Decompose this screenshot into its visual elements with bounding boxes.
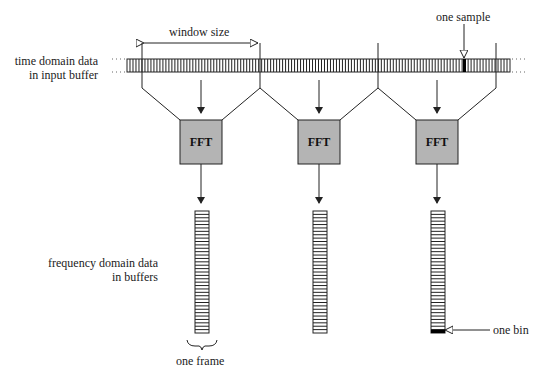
fft-label-1: FFT [180, 135, 222, 150]
time-domain-label-1: time domain data [0, 54, 98, 68]
freq-domain-label-1: frequency domain data [0, 256, 158, 270]
one-bin-label: one bin [493, 323, 529, 337]
window-size-label: window size [169, 25, 229, 39]
frequency-buffers [195, 211, 445, 333]
fft-label-2: FFT [298, 135, 340, 150]
input-buffer [127, 59, 510, 72]
fft-label-3: FFT [416, 135, 458, 150]
one-frame-brace [187, 340, 217, 350]
one-sample-cell [463, 59, 466, 72]
one-bin-cell [431, 330, 445, 333]
one-sample-label: one sample [436, 10, 490, 24]
arrows-out-of-fft [201, 164, 437, 203]
time-domain-label-2: in input buffer [0, 68, 98, 82]
one-frame-label: one frame [176, 354, 224, 368]
freq-domain-label-2: in buffers [0, 270, 158, 284]
